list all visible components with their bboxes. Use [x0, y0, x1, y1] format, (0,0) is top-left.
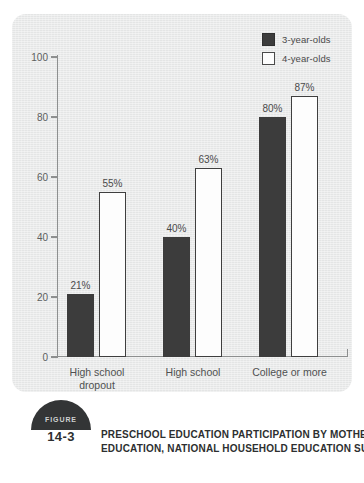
x-axis-category-high-school-dropout: High school dropout	[52, 366, 142, 391]
bar-4-year-olds-high-school	[195, 168, 222, 357]
bar-4-year-olds-college-or-more	[291, 96, 318, 357]
figure-container: 3-year-olds 4-year-olds 100 80 60 40 20 …	[0, 0, 364, 483]
value-label: 21%	[62, 280, 99, 291]
x-axis-category-high-school: High school	[148, 366, 238, 379]
figure-badge-word: FIGURE	[31, 416, 91, 423]
y-axis-tick	[51, 176, 58, 177]
y-axis-line	[57, 55, 58, 358]
value-label: 80%	[254, 103, 291, 114]
figure-caption: PRESCHOOL EDUCATION PARTICIPATION BY MOT…	[101, 428, 359, 456]
y-axis-label-100: 100	[14, 52, 48, 63]
caption-line-2: EDUCATION, NATIONAL HOUSEHOLD EDUCATION …	[101, 442, 359, 456]
x-axis-category-college-or-more: College or more	[243, 366, 336, 379]
value-label: 40%	[158, 223, 195, 234]
chart-legend: 3-year-olds 4-year-olds	[262, 31, 331, 69]
y-axis-label-20: 20	[14, 292, 48, 303]
value-label: 55%	[94, 178, 131, 189]
filled-square-icon	[262, 33, 275, 46]
y-axis-label-80: 80	[14, 112, 48, 123]
figure-badge	[31, 400, 91, 430]
y-axis-label-60: 60	[14, 172, 48, 183]
category-line: dropout	[52, 379, 142, 392]
outlined-square-icon	[262, 52, 275, 65]
legend-label: 3-year-olds	[282, 34, 331, 45]
x-axis-end-tick	[347, 349, 348, 357]
y-axis-label-0: 0	[14, 352, 48, 363]
legend-item-3-year-olds: 3-year-olds	[262, 31, 331, 47]
value-label: 87%	[286, 82, 323, 93]
legend-item-4-year-olds: 4-year-olds	[262, 50, 331, 66]
y-axis-tick	[51, 356, 58, 357]
y-axis-tick	[51, 296, 58, 297]
category-line: College or more	[243, 366, 336, 379]
y-axis-tick	[51, 56, 58, 57]
value-label: 63%	[190, 154, 227, 165]
bar-3-year-olds-college-or-more	[259, 117, 286, 357]
category-line: High school	[52, 366, 142, 379]
y-axis-tick	[51, 236, 58, 237]
category-line: High school	[148, 366, 238, 379]
bar-4-year-olds-high-school-dropout	[99, 192, 126, 357]
bar-3-year-olds-high-school-dropout	[67, 294, 94, 357]
caption-line-1: PRESCHOOL EDUCATION PARTICIPATION BY MOT…	[101, 428, 359, 442]
y-axis-label-40: 40	[14, 232, 48, 243]
legend-label: 4-year-olds	[282, 53, 331, 64]
figure-number: 14-3	[31, 429, 91, 444]
bar-3-year-olds-high-school	[163, 237, 190, 357]
y-axis-tick	[51, 116, 58, 117]
